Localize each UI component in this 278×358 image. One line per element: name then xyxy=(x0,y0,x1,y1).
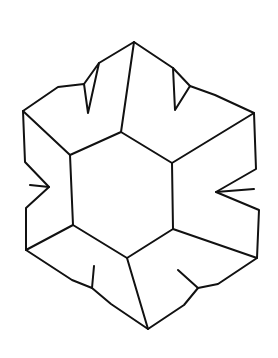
outer-outline xyxy=(23,42,259,329)
notch-edge xyxy=(92,266,94,288)
edge-spoke xyxy=(172,113,254,163)
edge-spoke xyxy=(173,229,257,258)
edge-spoke xyxy=(23,111,70,155)
edge-spoke xyxy=(127,258,148,329)
crystal-diagram xyxy=(0,0,278,358)
inner-hexagon-face xyxy=(70,132,173,258)
edge-spoke xyxy=(26,225,73,250)
edge-spoke xyxy=(121,42,134,132)
crystal-drawing xyxy=(0,0,278,358)
notch-edge xyxy=(173,68,190,86)
notch-edge xyxy=(178,270,198,288)
